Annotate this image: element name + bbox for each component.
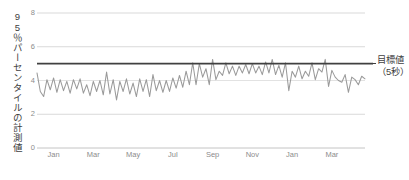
y-tick-label-6: 6 — [31, 43, 35, 51]
x-axis-tick-labels: JanMarMayJulSepNovJanMar — [37, 150, 365, 166]
legend-label-target: 目標値 （5秒） — [377, 54, 409, 78]
x-tick-label-6: Jan — [286, 150, 298, 160]
x-tick-label-3: Jul — [168, 150, 178, 160]
legend-swatch-target — [364, 63, 376, 64]
x-tick-label-7: Mar — [325, 150, 338, 160]
legend-label-target-line1: 目標値 — [377, 54, 409, 66]
gridlines — [37, 13, 365, 148]
plot-area — [37, 13, 365, 148]
y-tick-label-2: 2 — [31, 110, 35, 118]
x-tick-label-2: May — [126, 150, 140, 160]
y-axis-title: 95％パーセンタイルの計測値 — [2, 8, 22, 156]
x-tick-label-4: Sep — [206, 150, 219, 160]
y-tick-label-0: 0 — [31, 144, 35, 152]
x-tick-label-5: Nov — [246, 150, 259, 160]
plot-svg — [37, 13, 365, 148]
series-line-measurement — [37, 59, 365, 100]
y-axis-tick-labels: 8 6 4 2 0 — [22, 0, 35, 180]
legend-label-target-line2: （5秒） — [377, 66, 409, 78]
x-tick-label-0: Jan — [48, 150, 60, 160]
x-tick-label-1: Mar — [87, 150, 100, 160]
y-tick-label-8: 8 — [31, 9, 35, 17]
y-tick-label-4: 4 — [31, 77, 35, 85]
